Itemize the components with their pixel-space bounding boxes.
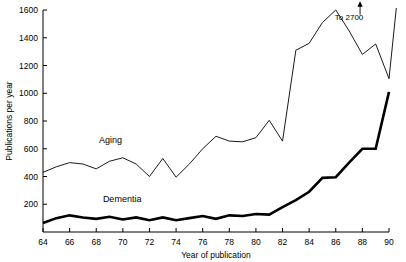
x-tick-label: 88 [358,237,368,247]
chart-canvas: 2004006008001000120014001600 64666870727… [0,0,406,262]
data-series-group [43,8,396,223]
x-tick-label: 86 [331,237,341,247]
x-tick-label: 68 [91,237,101,247]
y-tick-label: 1400 [19,33,38,43]
x-tick-label: 90 [384,237,394,247]
x-tick-label: 80 [251,237,261,247]
x-tick-label: 76 [198,237,208,247]
y-tick-label: 200 [24,199,38,209]
y-axis-title: Publications per year [4,81,14,161]
x-tick-label: 74 [171,237,181,247]
series-inline-labels: AgingDementia [99,135,142,204]
annotation-label: To 2700 [335,13,364,22]
x-tick-label: 64 [38,237,48,247]
series-line-aging [43,10,389,177]
plot-area: 2004006008001000120014001600 64666870727… [19,1,396,247]
x-tick-label: 72 [145,237,155,247]
x-axis-title: Year of publication [181,250,251,260]
series-line-dementia [43,92,389,223]
y-tick-label: 400 [24,172,38,182]
y-tick-label: 800 [24,116,38,126]
chart-annotations: To 2700 [335,1,364,22]
x-tick-label: 70 [118,237,128,247]
x-tick-label: 78 [225,237,235,247]
publications-per-year-chart: 2004006008001000120014001600 64666870727… [0,0,406,262]
annotation-arrow-head [357,1,362,7]
x-tick-label: 82 [278,237,288,247]
y-tick-label: 1200 [19,61,38,71]
series-line-aging-offscale [389,8,396,79]
x-tick-label: 84 [304,237,314,247]
dementia-label: Dementia [103,194,142,204]
y-tick-label: 1600 [19,5,38,15]
x-tick-label: 66 [65,237,75,247]
y-tick-label: 600 [24,144,38,154]
y-tick-label: 1000 [19,88,38,98]
x-axis-ticks: 6466687072747678808284868890 [38,228,394,247]
aging-label: Aging [99,135,122,145]
